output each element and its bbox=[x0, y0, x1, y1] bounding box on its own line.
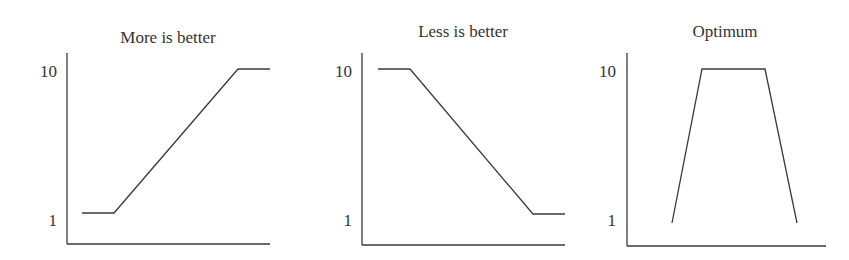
chart-title: More is better bbox=[120, 28, 216, 47]
value-curve bbox=[82, 69, 270, 213]
chart-title: Optimum bbox=[692, 22, 757, 41]
y-tick-label-10: 10 bbox=[599, 62, 616, 81]
chart-less-is-better: Less is better 10 1 bbox=[335, 22, 565, 245]
y-tick-label-1: 1 bbox=[49, 211, 58, 230]
value-curve bbox=[378, 69, 565, 214]
y-tick-label-1: 1 bbox=[608, 211, 617, 230]
y-tick-label-1: 1 bbox=[344, 211, 353, 230]
y-tick-label-10: 10 bbox=[40, 62, 57, 81]
value-curve bbox=[672, 69, 797, 223]
figure-canvas: More is better 10 1 Less is better 10 1 … bbox=[0, 0, 849, 260]
chart-optimum: Optimum 10 1 bbox=[599, 22, 826, 246]
chart-more-is-better: More is better 10 1 bbox=[40, 28, 270, 244]
chart-title: Less is better bbox=[418, 22, 508, 41]
y-tick-label-10: 10 bbox=[335, 62, 352, 81]
value-function-figure: More is better 10 1 Less is better 10 1 … bbox=[0, 0, 849, 260]
